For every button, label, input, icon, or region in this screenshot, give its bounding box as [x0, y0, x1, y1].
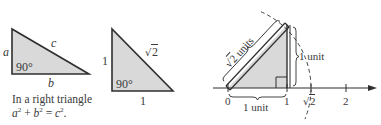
- hypotenuse-label: √2: [145, 46, 158, 58]
- tick-label-0: 0: [225, 96, 231, 107]
- unit-right-angle-label: 90°: [116, 78, 133, 90]
- eq-period: .: [64, 107, 67, 119]
- base-length-label: 1 unit: [243, 102, 268, 113]
- horizontal-leg-label: 1: [140, 95, 146, 107]
- base-brace: [229, 94, 286, 100]
- tick-label-2: 2: [343, 96, 349, 107]
- eq-equals: =: [43, 107, 55, 119]
- vertical-leg-label: 1: [102, 55, 108, 67]
- tick-label-1: 1: [284, 96, 290, 107]
- axis-arrow-icon: [368, 85, 377, 91]
- pythagorean-equation: a2 + b2 = c2.: [12, 107, 66, 119]
- tick-label-sqrt2: √2: [303, 96, 315, 107]
- right-angle-label: 90°: [16, 61, 33, 73]
- hypotenuse-radicand: 2: [151, 44, 158, 59]
- number-line-figure: [213, 12, 377, 119]
- side-c-label: c: [51, 37, 56, 49]
- tick-radicand: 2: [309, 94, 315, 107]
- side-b-label: b: [48, 77, 54, 89]
- eq-plus: +: [21, 107, 33, 119]
- side-a-label: a: [3, 46, 9, 58]
- caption-line-1: In a right triangle: [12, 94, 92, 106]
- vertical-length-label: 1 unit: [299, 51, 324, 62]
